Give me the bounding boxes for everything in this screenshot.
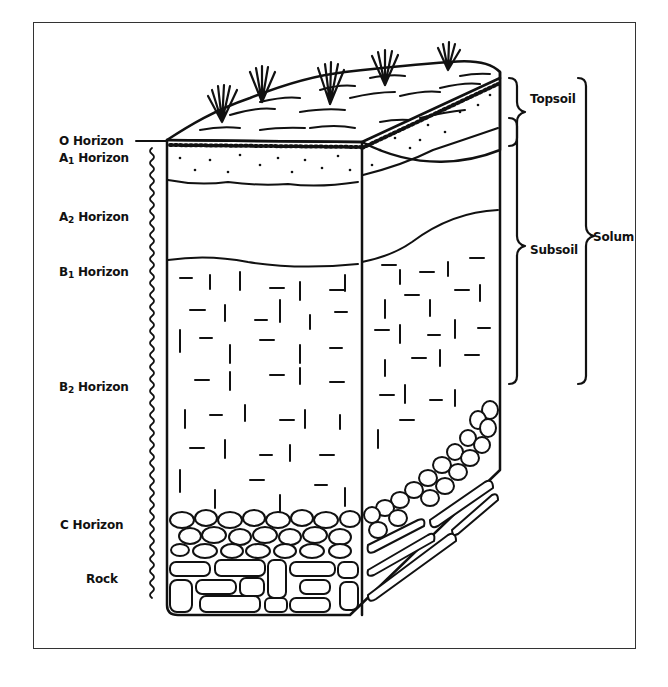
label-solum: Solum — [593, 230, 634, 244]
subsoil-bracket — [509, 118, 525, 384]
c-horizon-cobbles — [170, 510, 360, 612]
c-horizon-cobbles-side — [364, 401, 498, 601]
solum-bracket — [578, 78, 594, 384]
label-b2-horizon: B2 Horizon — [59, 380, 129, 395]
label-o-horizon: O Horizon — [59, 134, 124, 148]
label-rock: Rock — [86, 572, 118, 586]
label-c-horizon: C Horizon — [60, 518, 123, 532]
wavy-depth-marker — [150, 148, 154, 598]
label-a2-horizon: A2 Horizon — [59, 210, 129, 225]
label-b1-horizon: B1 Horizon — [59, 265, 129, 280]
b-horizon-marks — [180, 258, 490, 513]
b1-boundary — [168, 210, 498, 267]
label-topsoil: Topsoil — [530, 92, 576, 106]
label-subsoil: Subsoil — [530, 243, 578, 257]
label-a1-horizon: A1 Horizon — [59, 151, 129, 166]
